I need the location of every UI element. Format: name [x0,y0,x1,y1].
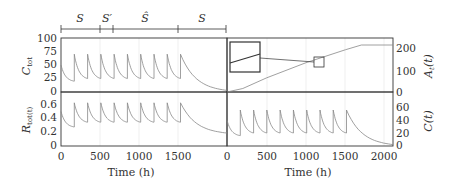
xtick: 500 [257,150,277,162]
x-axis-label-left: Time (h) [108,166,155,179]
x-axis-label-right: Time (h) [285,166,332,179]
xtick: 1000 [126,150,153,162]
ytick: 0.6 [40,98,57,110]
panel-ctot [61,38,227,92]
c-curve [227,110,393,145]
xtick: 500 [90,150,110,162]
panel-c [227,92,393,146]
ytick: 0.2 [40,125,57,137]
ytick: 25 [44,71,57,83]
xtick: 2000 [371,150,398,162]
ctot-curve [61,54,227,90]
ytick: 20 [396,127,409,139]
ytick: 0.4 [40,111,57,123]
y-axis-label-rtot: Rtot(t) [20,107,34,135]
zoom-inset [230,42,260,72]
ytick: 0 [50,139,57,151]
y-axis-label-ctot: Ctot [20,57,34,75]
xtick: 1000 [293,150,320,162]
ytick: 0 [50,85,57,97]
ytick: 100 [37,32,57,44]
ytick: 75 [44,45,57,57]
phase-bar [61,25,226,33]
rtot-curve [61,103,227,133]
phase-label-3: Ŝ [141,11,149,25]
ytick: 40 [396,114,409,126]
ytick: 50 [44,58,57,70]
xtick: 0 [58,150,65,162]
xtick: 0 [224,150,231,162]
ytick: 100 [396,65,416,77]
xtick: 1500 [165,150,192,162]
figure: S S′ Ŝ S 100 75 50 25 0 0.6 0.4 0.2 0 20… [0,0,453,187]
ytick: 60 [396,101,409,113]
phase-label-1: S [76,12,84,25]
y-axis-label-at: At(t) [422,54,436,79]
y-axis-label-c: C(t) [422,110,435,131]
panel-rtot [61,92,227,146]
ytick: 0 [396,86,403,98]
xtick: 1500 [332,150,359,162]
phase-label-4: S [198,12,206,25]
ytick: 200 [396,42,416,54]
phase-label-2: S′ [102,12,113,25]
